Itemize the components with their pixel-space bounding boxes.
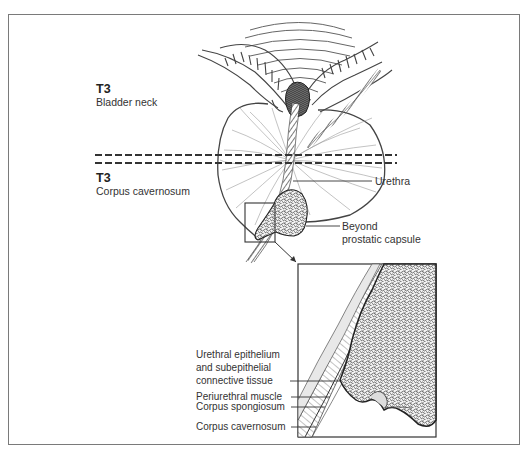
beyond-capsule-label-2: prostatic capsule [342,233,421,246]
cavernosum-tumor [255,190,307,240]
stage-label-bladder-neck: T3 Bladder neck [96,82,157,108]
vas-deferens [308,70,380,148]
stage-label-corpus-cavernosum: T3 Corpus cavernosum [96,171,190,197]
urethra-label: Urethra [375,175,410,188]
epithelium-label-1: Urethral epithelium [196,349,280,362]
beyond-capsule-label-1: Beyond [342,220,378,233]
stage-t3-cavernosum: T3 [96,171,190,185]
right-vesicle [305,42,392,112]
stage-desc-cavernosum: Corpus cavernosum [96,185,190,197]
stage-t3-bladder: T3 [96,82,157,96]
epithelium-label-3: connective tissue [196,375,273,388]
epithelium-label-2: and subepithelial [196,362,271,375]
stage-desc-bladder: Bladder neck [96,96,157,108]
figure: T3 Bladder neck T3 Corpus cavernosum Ure… [0,0,529,453]
left-vesicle [198,44,295,112]
corpus-cavernosum-label: Corpus cavernosum [196,421,285,434]
corpus-spongiosum-label: Corpus spongiosum [196,401,285,414]
